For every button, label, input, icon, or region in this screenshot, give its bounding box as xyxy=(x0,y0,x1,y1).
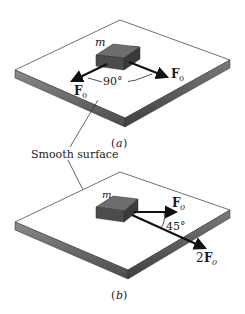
mass-label-a: m xyxy=(95,36,105,49)
force-label-b-diagonal: 2 F 0 xyxy=(196,251,217,267)
force-subscript: 0 xyxy=(82,91,87,100)
svg-text:(: ( xyxy=(111,289,115,302)
panel-b: 45° m F 0 2 F 0 ( b ) xyxy=(15,172,230,302)
mass-label-b: m xyxy=(102,189,111,200)
svg-text:): ) xyxy=(123,289,127,302)
angle-label-b: 45° xyxy=(166,220,186,233)
smooth-surface-plate-a xyxy=(15,20,230,127)
caption-letter: b xyxy=(116,289,123,302)
force-subscript: 0 xyxy=(212,258,217,267)
caption-b: ( b ) xyxy=(111,289,127,302)
diagram-canvas: 90° m F 0 F 0 ( a ) Smooth surface xyxy=(0,0,245,314)
force-subscript: 0 xyxy=(179,74,184,83)
force-subscript: 0 xyxy=(180,203,185,212)
force-coefficient: 2 xyxy=(196,251,204,265)
svg-text:): ) xyxy=(123,137,127,150)
panel-a: 90° m F 0 F 0 ( a ) xyxy=(15,20,230,150)
figure: 90° m F 0 F 0 ( a ) Smooth surface xyxy=(0,0,245,314)
smooth-surface-label: Smooth surface xyxy=(31,148,119,161)
angle-label-a: 90° xyxy=(103,75,123,88)
